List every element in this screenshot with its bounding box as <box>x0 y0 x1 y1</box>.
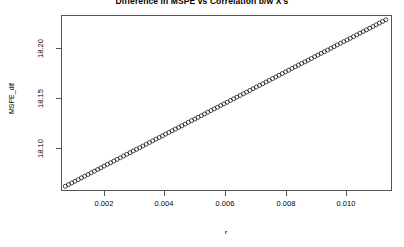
y-axis-title: MSPE_dif <box>8 69 15 129</box>
y-tick-label: 18.20 <box>36 29 45 69</box>
x-tick-label: 0.002 <box>81 199 127 208</box>
y-tick-label: 18.10 <box>36 129 45 169</box>
scatter-series <box>62 16 392 191</box>
x-axis-title: r <box>196 228 256 234</box>
x-tick-mark <box>164 191 165 196</box>
y-tick-mark <box>56 98 61 99</box>
x-tick-mark <box>225 191 226 196</box>
chart-canvas: Difference in MSPE vs Correlation b/w X'… <box>0 0 404 247</box>
x-tick-mark <box>104 191 105 196</box>
plot-area <box>61 15 392 191</box>
x-tick-mark <box>346 191 347 196</box>
y-tick-label: 18.15 <box>36 79 45 119</box>
x-tick-label: 0.010 <box>323 199 369 208</box>
y-tick-mark <box>56 148 61 149</box>
x-tick-mark <box>286 191 287 196</box>
chart-title: Difference in MSPE vs Correlation b/w X'… <box>0 0 404 6</box>
data-point <box>384 18 388 22</box>
x-tick-label: 0.006 <box>202 199 248 208</box>
y-tick-mark <box>56 48 61 49</box>
x-tick-label: 0.004 <box>141 199 187 208</box>
x-tick-label: 0.008 <box>263 199 309 208</box>
